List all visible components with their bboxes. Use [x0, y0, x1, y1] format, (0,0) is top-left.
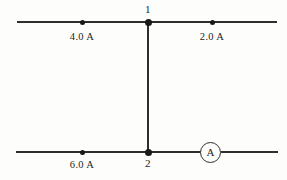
wire-bottom-horizontal-right [221, 151, 278, 153]
current-direction-marker-bottom-left [80, 150, 85, 155]
current-direction-marker-top-right [210, 20, 215, 25]
wire-vertical-connector [147, 21, 149, 152]
current-direction-marker-top-left [80, 20, 85, 25]
current-label-bottom-left: 6.0 A [70, 159, 94, 170]
current-label-top-right: 2.0 A [200, 31, 224, 42]
ammeter-symbol: A [200, 142, 221, 163]
junction-node-2-label: 2 [145, 157, 151, 169]
circuit-diagram: 1 2 4.0 A 2.0 A 6.0 A A [0, 0, 287, 180]
junction-node-2-dot [145, 149, 152, 156]
junction-node-1-dot [145, 19, 152, 26]
junction-node-1-label: 1 [145, 3, 151, 15]
wire-bottom-horizontal-left [16, 151, 201, 153]
ammeter-label: A [207, 147, 215, 158]
current-label-top-left: 4.0 A [70, 31, 94, 42]
